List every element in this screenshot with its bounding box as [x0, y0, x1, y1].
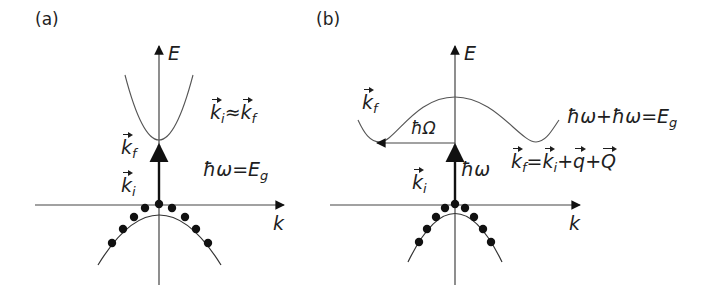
panel-b-photon-label: ħω — [461, 160, 490, 179]
panel-a-momentum-relation: ki≈kf — [210, 103, 256, 125]
panel-b-k-axis-label: k — [569, 214, 580, 233]
panel-b-kf-label: kf — [362, 93, 378, 115]
panel-a-energy-relation: ħω=Eg — [203, 160, 268, 182]
panel-b-energy-axis-label: E — [464, 44, 476, 63]
panel-b-ki-label: ki — [412, 173, 427, 195]
panel-b-momentum-relation: kf=ki+q+Q — [511, 152, 616, 174]
panel-b-phonon-label: ħΩ — [411, 120, 436, 137]
panel-b-label: (b) — [316, 11, 340, 28]
panel-a-ki-label: ki — [121, 176, 136, 198]
panel-a-label: (a) — [35, 11, 59, 28]
panel-a-kf-label: kf — [121, 138, 137, 160]
panel-a-electron-dots — [108, 200, 212, 247]
panel-a-k-axis-label: k — [273, 214, 284, 233]
panel-a-energy-axis-label: E — [168, 44, 180, 63]
panel-b-conduction-band — [358, 97, 559, 142]
panel-b-energy-relation: ħω+ħω=Eg — [567, 107, 677, 129]
